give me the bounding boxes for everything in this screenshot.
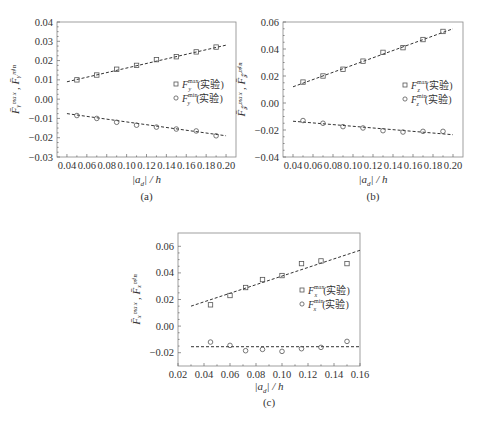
square-marker (319, 259, 323, 263)
circle-marker (441, 129, 446, 134)
square-marker (208, 303, 212, 307)
x-tick-label: 0.18 (424, 160, 442, 171)
y-tick-label: 0.02 (156, 294, 174, 305)
y-tick-label: 0.04 (156, 267, 175, 278)
circle-marker (345, 339, 350, 344)
y-tick-label: −0.02 (29, 132, 53, 143)
circle-marker (208, 340, 213, 345)
y-tick-label: 0.04 (261, 44, 280, 55)
y-tick-label: 0.04 (35, 17, 54, 28)
x-tick-label: 0.06 (304, 160, 322, 171)
legend-circle-icon (300, 302, 304, 306)
legend: Fmaxx(实验)Fminx(实验) (300, 284, 350, 312)
fit-line (67, 114, 226, 136)
x-tick-label: 0.14 (157, 160, 176, 171)
series-min (293, 118, 453, 134)
circle-marker (361, 126, 366, 131)
figure: 0.040.060.080.100.120.140.160.180.20−0.0… (0, 0, 478, 426)
fit-line (293, 121, 453, 135)
legend-circle-icon (403, 97, 407, 101)
circle-marker (260, 347, 265, 352)
x-axis-title: |ad| / h (254, 380, 284, 395)
y-axis-title: F̄ᵧᵐᵃˣ , F̄ᵧᵐⁱⁿ (9, 64, 21, 115)
legend-square-icon (174, 82, 178, 86)
x-tick-label: 0.12 (299, 369, 317, 380)
fit-line (67, 45, 226, 82)
fit-line (293, 29, 453, 87)
x-tick-label: 0.18 (197, 160, 215, 171)
circle-marker (194, 129, 199, 134)
legend-label: Fminy(实验) (181, 92, 223, 106)
series-min (191, 339, 360, 354)
square-marker (299, 261, 303, 265)
square-marker (345, 261, 349, 265)
legend-label: Fminx(实验) (307, 298, 349, 312)
x-tick-label: 0.20 (217, 160, 235, 171)
x-tick-label: 0.16 (404, 160, 422, 171)
circle-marker (228, 343, 233, 348)
x-tick-label: 0.04 (284, 160, 303, 171)
chart-panel-a: 0.040.060.080.100.120.140.160.180.20−0.0… (9, 17, 236, 204)
y-axis-title: F̄𝓏ᵐᵃˣ , F̄𝓏ᵐⁱⁿ (235, 62, 248, 118)
square-marker (214, 45, 218, 49)
legend: Fmaxz(实验)Fminz(实验) (403, 79, 453, 107)
y-tick-label: 0.02 (261, 71, 279, 82)
y-tick-label: −0.04 (255, 152, 280, 163)
legend: Fmaxy(实验)Fminy(实验) (174, 78, 224, 106)
x-tick-label: 0.14 (325, 369, 344, 380)
legend-label: Fmaxy(实验) (181, 78, 224, 92)
x-tick-label: 0.06 (78, 160, 96, 171)
legend-label: Fminz(实验) (410, 93, 451, 107)
square-marker (421, 37, 425, 41)
y-tick-label: 0.00 (261, 98, 279, 109)
x-tick-label: 0.16 (177, 160, 195, 171)
x-tick-label: 0.14 (384, 160, 403, 171)
x-tick-label: 0.08 (324, 160, 342, 171)
circle-marker (319, 345, 324, 350)
x-tick-label: 0.10 (117, 160, 135, 171)
panel-caption: (a) (140, 190, 153, 203)
y-tick-label: 0.06 (156, 241, 174, 252)
circle-marker (243, 348, 248, 353)
square-marker (260, 277, 264, 281)
legend-label: Fmaxz(实验) (410, 79, 452, 93)
x-tick-label: 0.08 (98, 160, 116, 171)
chart-panel-c: 0.020.040.060.080.100.120.140.16−0.020.0… (130, 233, 369, 409)
legend-square-icon (300, 288, 304, 292)
legend-circle-icon (174, 96, 178, 100)
x-axis-title: |ad| / h (132, 173, 162, 188)
y-tick-label: −0.03 (29, 152, 53, 163)
y-tick-label: −0.01 (29, 113, 53, 124)
square-marker (228, 293, 232, 297)
x-tick-label: 0.06 (221, 369, 239, 380)
x-tick-label: 0.12 (364, 160, 382, 171)
series-max (67, 45, 226, 82)
chart-panel-b: 0.040.060.080.100.120.140.160.180.20−0.0… (235, 17, 463, 204)
y-tick-label: 0.00 (35, 94, 53, 105)
y-tick-label: −0.02 (150, 347, 174, 358)
x-axis-title: |ad| / h (358, 173, 388, 188)
x-tick-label: 0.04 (58, 160, 77, 171)
x-tick-label: 0.20 (444, 160, 462, 171)
y-axis-title: F̄ₓᵐᵃˣ , F̄ₓᵐⁱⁿ (130, 274, 142, 326)
x-tick-label: 0.10 (344, 160, 362, 171)
y-tick-label: 0.00 (156, 321, 174, 332)
y-tick-label: 0.03 (35, 36, 53, 47)
circle-marker (280, 349, 285, 354)
y-tick-label: −0.02 (255, 125, 279, 136)
circle-marker (421, 129, 426, 134)
circle-marker (321, 121, 326, 126)
x-tick-label: 0.02 (169, 369, 187, 380)
fit-line (191, 250, 360, 306)
x-tick-label: 0.08 (247, 369, 265, 380)
legend-label: Fmaxx(实验) (307, 284, 350, 298)
legend-square-icon (403, 83, 407, 87)
series-max (293, 29, 453, 87)
x-tick-label: 0.04 (195, 369, 214, 380)
x-tick-label: 0.10 (273, 369, 291, 380)
panel-caption: (b) (367, 190, 380, 203)
series-min (67, 113, 226, 138)
x-tick-label: 0.12 (137, 160, 155, 171)
y-tick-label: 0.06 (261, 17, 279, 28)
y-tick-label: 0.02 (35, 55, 53, 66)
